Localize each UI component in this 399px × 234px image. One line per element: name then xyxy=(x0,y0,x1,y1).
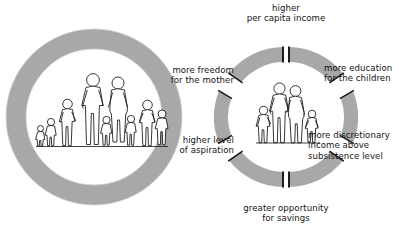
family-member-child-5 xyxy=(125,115,136,145)
small-family-father xyxy=(269,83,288,143)
family-member-child-3 xyxy=(59,99,76,145)
arrow-body xyxy=(229,152,284,187)
family-member-father xyxy=(82,74,103,145)
label-more-freedom-for-the-mother: more freedom for the mother xyxy=(160,65,234,86)
large-family-icon xyxy=(36,74,168,147)
family-member-child-4 xyxy=(101,116,112,145)
label-higher-per-capita-income: higher per capita income xyxy=(232,3,340,24)
label-more-education-for-the-children: more education for the children xyxy=(324,63,399,84)
small-family-mother xyxy=(287,86,305,143)
label-greater-opportunity-for-savings: greater opportunity for savings xyxy=(227,203,345,224)
diagram-graphics xyxy=(0,0,399,234)
family-member-child-2 xyxy=(45,118,56,145)
family-member-toddler-1 xyxy=(36,126,45,147)
label-more-discretionary-income-above-subsistence-level: more discretionary income above subsiste… xyxy=(308,130,399,161)
label-higher-level-of-aspiration: higher level of aspiration xyxy=(162,135,234,156)
arrow-to-more-freedom-for-the-mother xyxy=(228,47,283,83)
arrow-to-greater-opportunity-for-savings-left xyxy=(228,151,283,187)
diagram-canvas: higher per capita income more education … xyxy=(0,0,399,234)
family-member-child-6 xyxy=(139,100,155,145)
arrow-body xyxy=(229,47,284,82)
small-family-child-left xyxy=(256,106,271,143)
